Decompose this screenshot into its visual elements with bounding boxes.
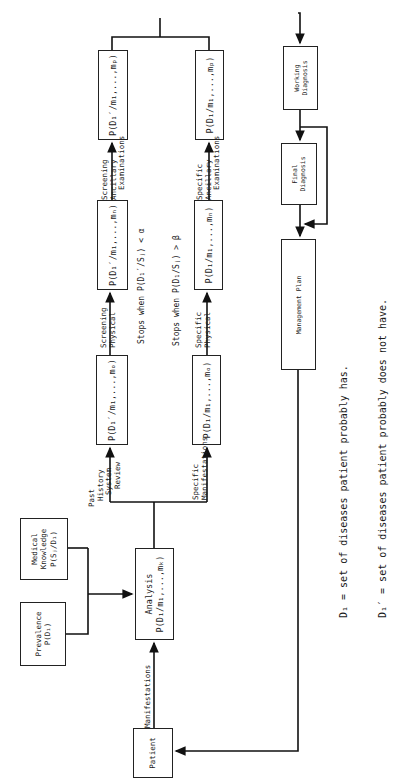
specific-ancillary-formula: P(D₁/m₁,...,mₚ) — [204, 57, 215, 134]
working-diagnosis-box: Working Diagnosis — [283, 46, 318, 110]
medical-knowledge-formula: P(Sⱼ/D₁) — [49, 529, 58, 570]
screening-ancillary-label: Screening Ancillary Examinations — [101, 136, 127, 200]
screening-ancillary-box: P(D₁′/m₁,...,mₚ) — [98, 50, 128, 140]
specific-manifestations-label: Specific Manifestations — [192, 437, 209, 500]
screening-physical-label: Screening Physical — [100, 307, 117, 348]
specific-physical-box: P(D₁/m₁,...,mₙ) — [194, 200, 223, 290]
screening-stop-condition: Stops when P(D₁′/Sⱼ) < α — [137, 228, 146, 344]
legend-d1-prime: D₁′ = set of diseases patient probably d… — [377, 299, 388, 618]
working-diagnosis-line1: Working — [292, 60, 300, 95]
specific-stop-condition: Stops when P(D₁/Sⱼ) > β — [172, 235, 181, 346]
medical-knowledge-line1: Medical — [30, 529, 39, 570]
working-diagnosis-line2: Diagnosis — [301, 60, 309, 95]
prevalence-formula: P(D₁) — [43, 611, 52, 656]
management-plan-label: Management Plan — [294, 275, 302, 334]
specific-ancillary-label: Specific Ancillary Examinations — [196, 136, 222, 200]
specific-manifest-formula: P(D₁/m₁,...,mₒ) — [201, 362, 212, 439]
analysis-title: Analysis — [144, 556, 155, 633]
final-diagnosis-line1: Final — [291, 156, 299, 191]
management-plan-box: Management Plan — [281, 239, 316, 370]
analysis-formula: P(D₁/m₁,...,mₖ) — [155, 556, 166, 633]
patient-box: Patient — [133, 728, 173, 778]
medical-knowledge-line2: Knowledge — [39, 529, 48, 570]
screening-history-box: P(D₁′/m₁,...,mₒ) — [96, 355, 128, 445]
screening-physical-formula: P(D₁′/m₁,...,mₙ) — [107, 204, 118, 286]
manifestations-label: Manifestations — [144, 665, 153, 728]
final-diagnosis-box: Final Diagnosis — [281, 143, 317, 205]
screening-history-formula: P(D₁′/m₁,...,mₒ) — [107, 359, 118, 441]
screening-ancillary-formula: P(D₁′/m₁,...,mₚ) — [108, 54, 119, 136]
specific-physical-formula: P(D₁/m₁,...,mₙ) — [203, 207, 214, 284]
past-history-label: Past History System Review — [88, 462, 123, 507]
legend-d1: D₁ = set of diseases patient probably ha… — [338, 365, 349, 618]
analysis-box: Analysis P(D₁/m₁,...,mₖ) — [135, 548, 174, 640]
specific-manifest-box: P(D₁/m₁,...,mₒ) — [192, 355, 221, 445]
prevalence-box: Prevalence P(D₁) — [20, 602, 66, 666]
screening-physical-box: P(D₁′/m₁,...,mₙ) — [97, 200, 128, 290]
specific-physical-label: Specific Physical — [195, 312, 212, 348]
medical-knowledge-box: Medical Knowledge P(Sⱼ/D₁) — [20, 518, 68, 580]
specific-ancillary-box: P(D₁/m₁,...,mₚ) — [195, 50, 224, 140]
patient-label: Patient — [148, 737, 157, 769]
final-diagnosis-line2: Diagnosis — [299, 156, 307, 191]
prevalence-title: Prevalence — [34, 611, 43, 656]
